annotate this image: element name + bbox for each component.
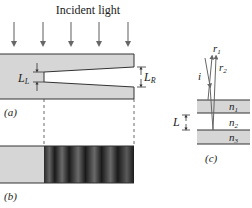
fringe-panel-b	[0, 146, 134, 183]
rays	[205, 57, 216, 130]
thickness-dimension	[182, 115, 190, 130]
n2-label: n2	[229, 116, 239, 130]
thickness-label: L	[172, 115, 180, 129]
layer-panel-c	[197, 100, 250, 144]
guide-lines	[44, 99, 134, 146]
incident-light-title: Incident light	[56, 3, 121, 17]
r1-label: r1	[213, 42, 221, 56]
right-gap-label: LR	[143, 70, 156, 85]
panel-a-label: (a)	[4, 106, 17, 119]
panel-b-label: (b)	[4, 190, 17, 203]
incident-arrows	[14, 22, 128, 44]
panel-c-label: (c)	[205, 152, 218, 165]
r2-label: r2	[219, 61, 227, 75]
thin-film-diagram: Incident light LL LR (a)	[0, 0, 252, 208]
incident-ray-label: i	[198, 70, 201, 82]
